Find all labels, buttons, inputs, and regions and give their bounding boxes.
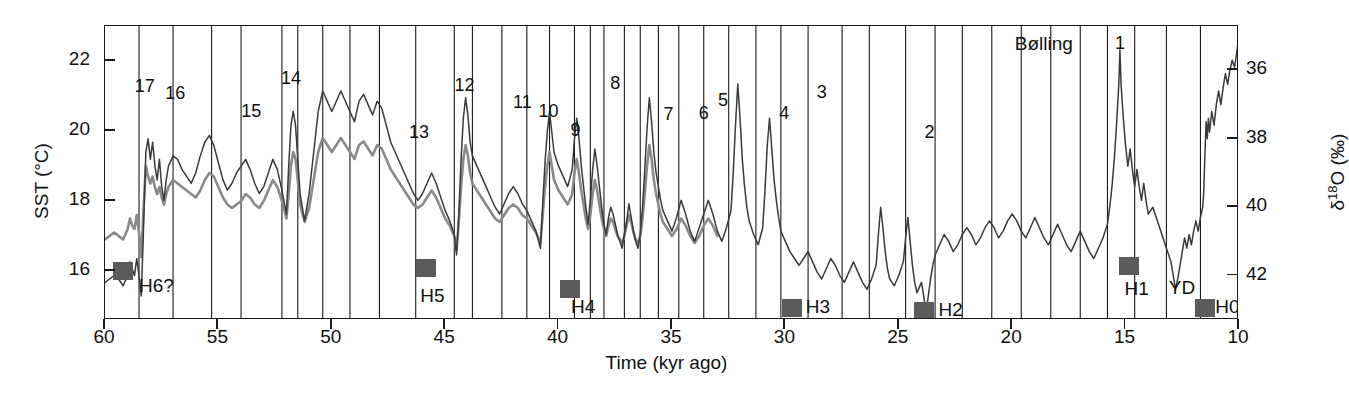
heinrich-marker-box-H6 (113, 262, 133, 280)
heinrich-marker-box-H5 (416, 259, 436, 277)
y-tick-label-right-38: 38 (1246, 126, 1290, 148)
y-tick-left (104, 59, 115, 61)
x-tick-label-10: 10 (1213, 326, 1263, 348)
heinrich-marker-box-H1 (1119, 257, 1139, 275)
y-tick-label-right-40: 40 (1246, 194, 1290, 216)
heinrich-marker-box-H2 (914, 302, 934, 319)
y-tick-right (1227, 68, 1238, 70)
y-tick-right (1227, 274, 1238, 276)
y-tick-label-left-16: 16 (46, 258, 90, 280)
interstadial-label-4: 4 (769, 103, 799, 124)
y-tick-label-left-20: 20 (46, 118, 90, 140)
y-tick-label-right-36: 36 (1246, 57, 1290, 79)
interstadial-label-1: 1 (1105, 33, 1135, 54)
heinrich-label-H5: H5 (420, 285, 444, 307)
annotation-yd: YD (1169, 277, 1195, 299)
heinrich-label-H0: H0 (1215, 296, 1238, 318)
interstadial-label-10: 10 (533, 101, 563, 122)
heinrich-label-H6: H6? (139, 275, 174, 297)
series-SST (105, 138, 717, 257)
interstadial-label-8: 8 (600, 73, 630, 94)
heinrich-label-H1: H1 (1124, 278, 1148, 300)
y-tick-left (104, 199, 115, 201)
y-tick-label-right-42: 42 (1246, 263, 1290, 285)
delta-symbol: δ (1327, 200, 1348, 211)
interstadial-label-7: 7 (654, 104, 684, 125)
x-tick-label-15: 15 (1100, 326, 1150, 348)
y-axis-right-title-rest: O (‰) (1327, 134, 1348, 186)
y-axis-right-title: δ18O (‰) (1325, 97, 1349, 247)
interstadial-label-9: 9 (561, 120, 591, 141)
interstadial-label-2: 2 (914, 122, 944, 143)
interstadial-label-15: 15 (236, 101, 266, 122)
x-axis-title: Time (kyr ago) (0, 352, 1333, 374)
interstadial-label-3: 3 (807, 82, 837, 103)
series-delta18O (105, 43, 1238, 313)
plot-area: 1716151413121110987654321H6?H5H4H3H2H1H0… (104, 25, 1238, 319)
heinrich-label-H2: H2 (938, 299, 962, 319)
x-tick-label-55: 55 (192, 326, 242, 348)
y-tick-label-left-18: 18 (46, 188, 90, 210)
interstadial-label-13: 13 (404, 122, 434, 143)
x-tick-label-45: 45 (419, 326, 469, 348)
y-tick-left (104, 129, 115, 131)
plot-svg (105, 26, 1238, 319)
x-tick-label-40: 40 (533, 326, 583, 348)
x-tick-label-20: 20 (986, 326, 1036, 348)
interstadial-label-17: 17 (130, 76, 160, 97)
x-tick-label-25: 25 (873, 326, 923, 348)
y-tick-label-left-22: 22 (46, 48, 90, 70)
interstadial-label-14: 14 (276, 68, 306, 89)
y-tick-left (104, 269, 115, 271)
y-tick-right (1227, 137, 1238, 139)
interstadial-label-16: 16 (160, 83, 190, 104)
heinrich-label-H3: H3 (806, 296, 830, 318)
heinrich-label-H4: H4 (571, 296, 595, 318)
heinrich-marker-box-H0 (1195, 299, 1215, 317)
x-tick-label-60: 60 (79, 326, 129, 348)
annotation-blling: Bølling (1015, 33, 1073, 55)
y-tick-right (1227, 205, 1238, 207)
x-tick-label-50: 50 (306, 326, 356, 348)
x-tick-label-30: 30 (759, 326, 809, 348)
heinrich-marker-box-H3 (782, 299, 802, 317)
data-curves (105, 43, 1238, 313)
interstadial-label-5: 5 (708, 90, 738, 111)
isotope-superscript: 18 (1325, 186, 1340, 200)
interstadial-label-12: 12 (449, 75, 479, 96)
x-tick-label-35: 35 (646, 326, 696, 348)
